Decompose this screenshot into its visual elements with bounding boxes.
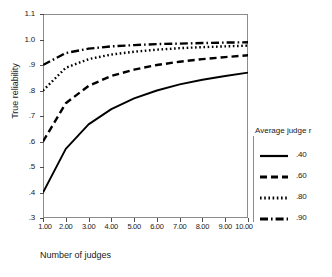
x-tick-label: 4.00	[105, 222, 118, 231]
legend-entry-60[interactable]: .60	[252, 161, 332, 182]
legend-entry-80[interactable]: .80	[252, 182, 332, 203]
x-tick-label: 6.00	[150, 222, 163, 231]
x-tick-label: 1.00	[38, 222, 51, 231]
y-tick-label: .8	[29, 87, 35, 95]
legend-entry-40[interactable]: .40	[252, 140, 332, 161]
legend-line-sample-icon	[260, 165, 288, 169]
x-tick-mark	[157, 218, 158, 222]
legend-line-sample-icon	[260, 207, 288, 211]
x-tick-label: 3.00	[82, 222, 95, 231]
y-tick-label: .9	[29, 61, 35, 69]
y-tick-label: 1.0	[24, 36, 35, 44]
x-axis-tick-marks	[43, 218, 248, 223]
y-tick-label: .5	[29, 163, 35, 171]
y-tick-mark	[40, 65, 44, 66]
x-tick-label: 8.00	[196, 222, 209, 231]
plot-lines-svg	[43, 14, 248, 218]
y-tick-label: .4	[29, 189, 35, 197]
legend-entry-label: .80	[296, 192, 307, 201]
y-tick-mark	[40, 167, 44, 168]
y-tick-mark	[40, 116, 44, 117]
x-tick-mark	[134, 218, 135, 222]
x-tick-mark	[180, 218, 181, 222]
y-tick-mark	[40, 193, 44, 194]
y-tick-mark	[40, 142, 44, 143]
x-tick-label: 7.00	[173, 222, 186, 231]
legend-entry-90[interactable]: .90	[252, 203, 332, 224]
x-tick-mark	[89, 218, 90, 222]
x-tick-mark	[43, 218, 44, 222]
x-tick-mark	[225, 218, 226, 222]
x-tick-mark	[248, 218, 249, 222]
series-line-60	[43, 55, 248, 141]
series-group	[43, 42, 248, 192]
x-tick-label: 2.00	[59, 222, 72, 231]
legend-line-sample-icon	[260, 144, 288, 148]
y-axis-tick-marks	[39, 14, 44, 218]
legend-title: Average judge r	[255, 126, 311, 135]
x-axis-tick-labels: 1.002.003.004.005.006.007.008.009.0010.0…	[43, 222, 248, 234]
y-tick-label: .3	[29, 214, 35, 222]
legend-entry-label: .60	[296, 171, 307, 180]
x-tick-mark	[66, 218, 67, 222]
y-axis-tick-labels: 1.11.0.9.8.7.6.5.4.3	[0, 14, 40, 218]
chart-figure: 1.11.0.9.8.7.6.5.4.3 True reliability 1.…	[0, 0, 332, 277]
x-tick-label: 9.00	[218, 222, 231, 231]
x-tick-label: 10.00	[235, 222, 252, 231]
legend-entry-label: .40	[296, 150, 307, 159]
legend-entry-label: .90	[296, 213, 307, 222]
y-tick-label: .6	[29, 138, 35, 146]
y-tick-label: .7	[29, 112, 35, 120]
x-tick-mark	[202, 218, 203, 222]
x-tick-mark	[111, 218, 112, 222]
y-tick-label: 1.1	[24, 10, 35, 18]
series-line-40	[43, 73, 248, 193]
x-tick-label: 5.00	[127, 222, 140, 231]
y-tick-mark	[40, 14, 44, 15]
y-tick-mark	[40, 91, 44, 92]
legend-line-sample-icon	[260, 186, 288, 190]
x-axis-title: Number of judges	[40, 250, 111, 260]
y-tick-mark	[40, 40, 44, 41]
y-axis-title: True reliability	[10, 21, 20, 161]
